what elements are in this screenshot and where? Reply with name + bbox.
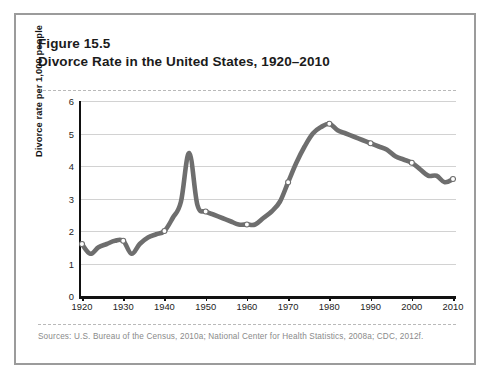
figure-title: Divorce Rate in the United States, 1920–… bbox=[38, 53, 438, 71]
x-tick-label: 1980 bbox=[319, 301, 340, 312]
sources-note: Sources: U.S. Bureau of the Census, 2010… bbox=[38, 331, 450, 344]
figure-number: Figure 15.5 bbox=[38, 35, 438, 52]
data-point-marker bbox=[409, 160, 414, 165]
data-point-marker bbox=[80, 242, 85, 247]
x-tick-label: 2000 bbox=[401, 301, 422, 312]
data-line bbox=[82, 124, 453, 254]
y-axis-ticks: 0123456 bbox=[58, 101, 74, 298]
chart-plot-area: Divorce rate per 1,000 people 0123456 19… bbox=[38, 101, 456, 316]
x-tick-label: 1930 bbox=[113, 301, 134, 312]
data-point-marker bbox=[327, 121, 332, 126]
x-tick-label: 1970 bbox=[278, 301, 299, 312]
x-tick-label: 2010 bbox=[443, 301, 464, 312]
x-tick-label: 1920 bbox=[72, 301, 93, 312]
x-axis-ticks: 1920193019401950196019701980199020002010 bbox=[79, 301, 456, 317]
y-axis-label: Divorce rate per 1,000 people bbox=[34, 37, 44, 157]
y-tick-label: 1 bbox=[69, 258, 74, 269]
data-point-marker bbox=[244, 222, 249, 227]
x-tick-label: 1940 bbox=[154, 301, 175, 312]
data-point-marker bbox=[368, 141, 373, 146]
data-point-marker bbox=[121, 238, 126, 243]
figure-card: Figure 15.5 Divorce Rate in the United S… bbox=[14, 13, 476, 365]
chart-canvas bbox=[79, 101, 456, 298]
x-tick-label: 1990 bbox=[360, 301, 381, 312]
data-point-marker bbox=[451, 177, 456, 182]
title-divider bbox=[38, 90, 456, 91]
y-tick-label: 4 bbox=[69, 161, 74, 172]
data-point-marker bbox=[162, 229, 167, 234]
y-tick-label: 5 bbox=[69, 128, 74, 139]
x-tick-label: 1960 bbox=[236, 301, 257, 312]
x-tick-label: 1950 bbox=[195, 301, 216, 312]
divorce-rate-line-series bbox=[79, 101, 456, 298]
y-tick-label: 0 bbox=[69, 291, 74, 302]
y-tick-label: 3 bbox=[69, 193, 74, 204]
sources-divider bbox=[38, 324, 456, 325]
y-tick-label: 2 bbox=[69, 226, 74, 237]
y-tick-label: 6 bbox=[69, 96, 74, 107]
title-block: Figure 15.5 Divorce Rate in the United S… bbox=[38, 35, 438, 71]
data-point-marker bbox=[203, 209, 208, 214]
data-point-marker bbox=[286, 180, 291, 185]
